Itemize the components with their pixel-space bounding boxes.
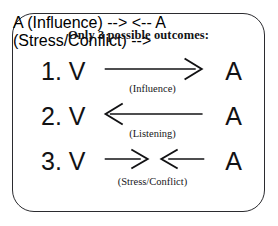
arrow-left-icon	[103, 101, 206, 131]
outcome-right-node: A	[225, 56, 242, 86]
arrow-right-icon	[103, 56, 206, 86]
outcome-label: (Influence)	[93, 83, 212, 94]
outcomes-box: Only 3 possible outcomes: A (Influence) …	[12, 13, 265, 212]
outcome-left-node: 3. V	[41, 146, 85, 176]
outcome-label: (Stress/Conflict)	[87, 176, 218, 187]
outcome-row: 3. V (Stress/Conflict) A	[27, 146, 252, 192]
outcome-right-node: A	[225, 101, 242, 131]
page-title: Only 3 possible outcomes:	[13, 28, 264, 43]
outcome-row: 1. V (Influence) A	[27, 56, 252, 102]
arrows-converging-icon	[103, 146, 206, 176]
outcome-row: 2. V (Listening) A	[27, 101, 252, 147]
outcome-label: (Listening)	[93, 128, 212, 139]
outcome-left-node: 1. V	[41, 56, 85, 86]
outcome-left-node: 2. V	[41, 101, 85, 131]
outcome-right-node: A	[225, 146, 242, 176]
